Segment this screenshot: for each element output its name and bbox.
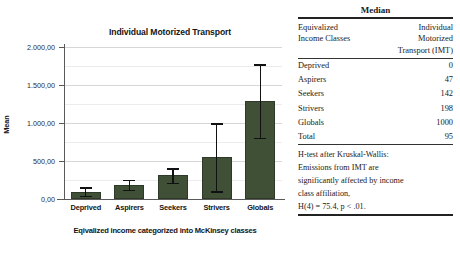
y-axis-tick (59, 199, 64, 200)
table-row: Deprived0 (298, 59, 453, 73)
y-axis-tick-label: 1.500,00 (27, 81, 55, 90)
row-label: Strivers (298, 102, 393, 116)
row-value: 47 (393, 73, 453, 87)
table-note-line: significantly affected by income (298, 174, 453, 187)
bar-chart-figure: Individual Motorized Transport Mean 0,00… (0, 0, 292, 266)
row-value: 95 (393, 130, 453, 144)
error-bar-cap-lower-seekers (167, 183, 179, 184)
error-bar-stem-aspirers (129, 180, 130, 190)
table-rule-bottom (298, 214, 453, 216)
table-body: Deprived0Aspirers47Seekers142Strivers198… (298, 59, 453, 144)
row-label: Globals (298, 116, 393, 130)
row-label: Seekers (298, 87, 393, 101)
table-note-line: Emissions from IMT are (298, 161, 453, 174)
row-value: 0 (393, 59, 453, 73)
table-row: Strivers198 (298, 102, 453, 116)
x-axis-line (57, 199, 285, 200)
table-note: H-test after Kruskal-Wallis:Emissions fr… (298, 145, 453, 214)
gridline (64, 47, 282, 48)
row-label: Deprived (298, 59, 393, 73)
error-bar-stem-globals (260, 64, 261, 137)
table-row: Seekers142 (298, 87, 453, 101)
table-note-line: class affiliation, (298, 187, 453, 200)
x-axis-tick-label-strivers: Strivers (195, 203, 239, 212)
table-note-line: H-test after Kruskal-Wallis: (298, 148, 453, 161)
y-axis-tick (59, 161, 64, 162)
column-header-left: EquivalizedIncome Classes (298, 22, 360, 57)
y-axis-tick-label: 500,00 (33, 157, 55, 166)
y-axis-tick (59, 47, 64, 48)
table-row: Globals1000 (298, 116, 453, 130)
gridline (64, 85, 282, 86)
row-value: 198 (393, 102, 453, 116)
error-bar-cap-lower-globals (254, 138, 266, 139)
x-axis-label: Eqivalized income categorized into McKin… (45, 226, 285, 235)
median-summary-table: Median EquivalizedIncome Classes Individ… (298, 5, 453, 216)
row-label: Total (298, 130, 393, 144)
y-axis-tick (59, 123, 64, 124)
column-header-right-line: Individual (360, 22, 453, 34)
column-header-right-line: Transport (IMT) (360, 45, 453, 57)
table-title: Median (298, 5, 453, 17)
table-row: Aspirers47 (298, 73, 453, 87)
y-axis-tick-label: 2.000,00 (27, 43, 55, 52)
x-axis-tick-label-aspirers: Aspirers (108, 203, 152, 212)
error-bar-cap-lower-aspirers (123, 190, 135, 191)
error-bar-stem-strivers (216, 123, 217, 191)
gridline-minor (64, 66, 282, 67)
x-axis-tick-label-globals: Globals (238, 203, 282, 212)
chart-title: Individual Motorized Transport (60, 27, 280, 37)
error-bar-cap-upper-deprived (80, 187, 92, 188)
error-bar-stem-seekers (172, 168, 173, 183)
error-bar-cap-upper-globals (254, 64, 266, 65)
y-axis-tick-label: 0,00 (41, 195, 55, 204)
error-bar-cap-upper-aspirers (123, 180, 135, 181)
table-note-line: H(4) = 75.4, p < .01. (298, 200, 453, 213)
y-axis-tick (59, 85, 64, 86)
column-header-right: IndividualMotorizedTransport (IMT) (360, 22, 453, 57)
table-column-headers: EquivalizedIncome Classes IndividualMoto… (298, 19, 453, 59)
column-header-right-line: Motorized (360, 33, 453, 45)
column-header-left-line: Income Classes (298, 33, 360, 45)
error-bar-cap-lower-deprived (80, 196, 92, 197)
error-bar-cap-upper-seekers (167, 168, 179, 169)
x-axis-tick-label-deprived: Deprived (64, 203, 108, 212)
column-header-left-line: Equivalized (298, 22, 360, 34)
row-label: Aspirers (298, 73, 393, 87)
y-axis-line (64, 44, 65, 200)
error-bar-cap-lower-strivers (211, 191, 223, 192)
y-axis-tick-label: 1.000,00 (27, 119, 55, 128)
table-row: Total95 (298, 130, 453, 144)
row-value: 1000 (393, 116, 453, 130)
row-value: 142 (393, 87, 453, 101)
error-bar-cap-upper-strivers (211, 123, 223, 124)
x-axis-tick-label-seekers: Seekers (151, 203, 195, 212)
